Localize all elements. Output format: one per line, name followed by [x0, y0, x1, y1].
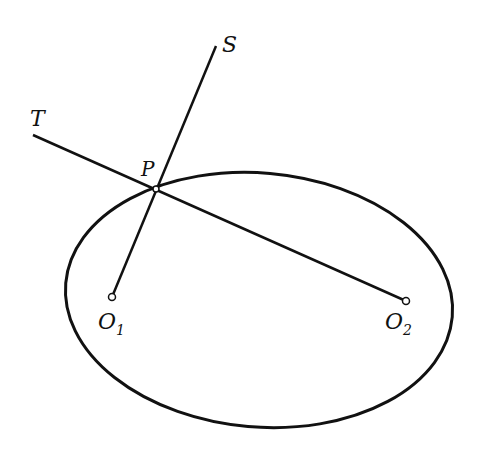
label-O1: O1	[98, 311, 125, 333]
label-P-text: P	[141, 157, 154, 181]
line-S-O1	[112, 46, 216, 297]
line-T-O2	[33, 135, 406, 301]
focus-O2-point	[403, 298, 410, 305]
label-S-text: S	[222, 32, 237, 57]
label-T: T	[30, 108, 45, 130]
label-O2-subscript: 2	[403, 322, 412, 338]
label-O1-text: O	[98, 309, 116, 334]
focus-O1-point	[109, 294, 116, 301]
label-S: S	[222, 34, 237, 56]
label-O1-subscript: 1	[116, 322, 125, 338]
label-O2: O2	[385, 311, 412, 333]
diagram-svg	[0, 0, 478, 455]
point-P	[153, 186, 159, 192]
label-P: P	[141, 159, 154, 179]
label-O2-text: O	[385, 309, 403, 334]
label-T-text: T	[30, 106, 45, 131]
diagram-canvas: S T P O1 O2	[0, 0, 478, 455]
